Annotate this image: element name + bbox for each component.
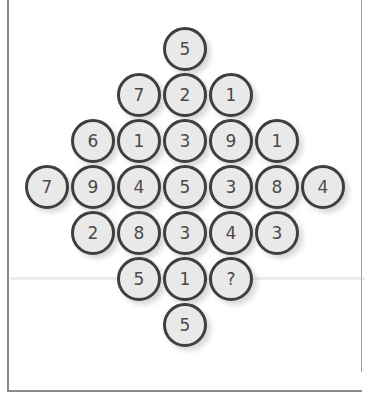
number-cell: 5	[163, 27, 207, 71]
number-cell: 3	[209, 165, 253, 209]
number-cell: 4	[117, 165, 161, 209]
number-cell: 6	[71, 119, 115, 163]
number-cell: 1	[163, 257, 207, 301]
number-cell: 1	[117, 119, 161, 163]
number-cell: 1	[209, 73, 253, 117]
number-cell: 2	[71, 211, 115, 255]
number-cell: 3	[163, 211, 207, 255]
number-cell: 4	[301, 165, 345, 209]
number-cell: 7	[25, 165, 69, 209]
number-cell: 3	[163, 119, 207, 163]
number-cell: 3	[255, 211, 299, 255]
number-cell: 5	[163, 303, 207, 347]
number-cell: 5	[117, 257, 161, 301]
number-cell: 2	[163, 73, 207, 117]
number-cell: 8	[255, 165, 299, 209]
missing-number-cell[interactable]: ?	[209, 257, 253, 301]
number-cell: 4	[209, 211, 253, 255]
frame-right-edge	[361, 0, 362, 372]
number-cell: 9	[209, 119, 253, 163]
number-cell: 5	[163, 165, 207, 209]
number-cell: 9	[71, 165, 115, 209]
number-cell: 8	[117, 211, 161, 255]
number-cell: 7	[117, 73, 161, 117]
number-cell: 1	[255, 119, 299, 163]
